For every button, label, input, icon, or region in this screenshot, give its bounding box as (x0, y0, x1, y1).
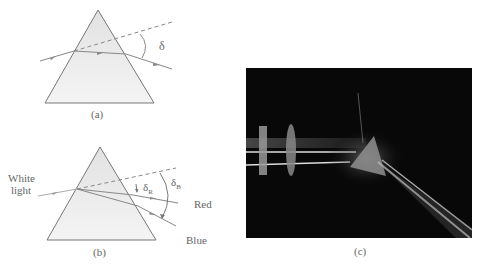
angle-delta-label: δ (159, 39, 165, 54)
delta-b-label: δB (171, 176, 181, 191)
lens (286, 124, 296, 176)
delta-r-label: δR (143, 181, 153, 196)
prism-b (38, 147, 178, 240)
prism-a (40, 10, 172, 103)
caption-b: (b) (93, 246, 106, 258)
dispersion-photo (246, 68, 472, 238)
delta-r-sub: R (148, 188, 153, 196)
white-light-label: White light (8, 172, 35, 196)
white-light-line2: light (8, 184, 35, 196)
photo-scene (246, 68, 472, 238)
delta-b-sub: B (176, 183, 181, 191)
caption-c: (c) (354, 245, 366, 257)
red-ray-label: Red (194, 198, 212, 210)
blue-ray-label: Blue (186, 234, 207, 246)
white-light-line1: White (8, 172, 35, 184)
caption-a: (a) (91, 108, 103, 120)
glass-plate (259, 126, 267, 175)
